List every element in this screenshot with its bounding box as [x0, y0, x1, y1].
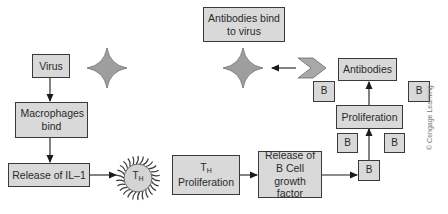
antibodies-box: Antibodies [338, 58, 397, 81]
virus-box: Virus [32, 54, 70, 78]
b-small-box: B [337, 133, 358, 153]
b-cell-label: B [366, 164, 373, 176]
b-small-box: B [313, 81, 335, 102]
il1-box: Release of IL–1 [8, 163, 90, 187]
proliferation-label: Proliferation [341, 111, 397, 124]
th-proliferation-label: Proliferation [178, 176, 234, 189]
b-growth-label: Release of B Cell growth factor [260, 149, 320, 200]
virus-star-icon [87, 48, 127, 88]
macrophages-box: Macrophages bind [15, 102, 88, 138]
b-cell-box: B [358, 160, 380, 181]
proliferation-box: Proliferation [336, 105, 403, 129]
th-proliferation-box: TH Proliferation [172, 155, 240, 195]
bound-virus-star-icon [223, 48, 263, 88]
macrophages-label: Macrophages bind [21, 107, 83, 133]
antibodies-label: Antibodies [343, 63, 392, 76]
virus-label: Virus [39, 60, 63, 73]
antibodies-bind-box: Antibodies bind to virus [203, 7, 285, 42]
antibodies-bind-label: Antibodies bind to virus [206, 12, 282, 38]
il1-label: Release of IL–1 [12, 169, 86, 182]
antibody-chevron-icon [298, 58, 326, 78]
copyright-credit: © Cengage Learning [426, 80, 438, 150]
th-proliferation-cell: TH [200, 161, 211, 176]
b-growth-box: Release of B Cell growth factor [258, 151, 322, 198]
b-small-box: B [384, 133, 405, 153]
th-cell-label: TH [126, 170, 150, 186]
